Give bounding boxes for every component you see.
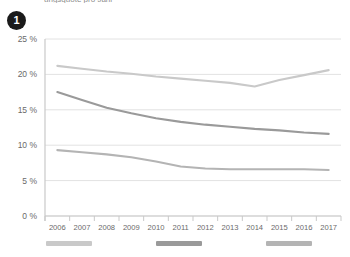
y-axis-tick-label: 10 %	[18, 140, 38, 150]
chart-svg: 0 %5 %10 %15 %20 %25 % 20062007200820092…	[0, 0, 350, 257]
series-line-series-2	[57, 92, 328, 134]
y-axis-tick-label: 20 %	[18, 69, 38, 79]
x-axis-tick-label: 2017	[320, 223, 337, 232]
series-layer	[57, 66, 328, 170]
x-axis-tick-label: 2006	[49, 223, 66, 232]
x-axis-tick-label: 2014	[246, 223, 263, 232]
y-axis-tick-label: 25 %	[18, 34, 38, 44]
legend-item-3[interactable]	[266, 241, 312, 248]
legend-swatch-2	[156, 241, 202, 246]
chart-legend	[0, 241, 350, 257]
x-axis	[45, 39, 341, 221]
y-axis-labels: 0 %5 %10 %15 %20 %25 %	[18, 34, 38, 221]
x-axis-tick-label: 2012	[197, 223, 214, 232]
y-axis-tick-label: 15 %	[18, 105, 38, 115]
x-axis-tick-label: 2013	[222, 223, 239, 232]
x-axis-tick-label: 2009	[123, 223, 140, 232]
legend-item-1[interactable]	[46, 241, 92, 248]
legend-swatch-1	[46, 241, 92, 246]
y-axis-tick-label: 5 %	[22, 176, 37, 186]
x-axis-tick-label: 2011	[172, 223, 188, 232]
x-axis-tick-label: 2008	[98, 223, 115, 232]
x-axis-tick-label: 2016	[296, 223, 313, 232]
x-axis-labels: 2006200720082009201020112012201320142015…	[49, 223, 337, 232]
line-chart: 0 %5 %10 %15 %20 %25 % 20062007200820092…	[0, 0, 350, 257]
y-axis-tick-label: 0 %	[22, 211, 37, 221]
x-axis-tick-label: 2015	[271, 223, 288, 232]
x-axis-tick-label: 2007	[74, 223, 91, 232]
series-line-series-3	[57, 150, 328, 170]
legend-item-2[interactable]	[156, 241, 202, 248]
x-axis-tick-label: 2010	[148, 223, 165, 232]
series-line-series-1	[57, 66, 328, 87]
gridlines	[45, 39, 341, 216]
legend-swatch-3	[266, 241, 312, 246]
